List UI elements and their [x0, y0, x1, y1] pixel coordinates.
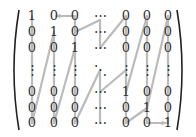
matrix-entry: 0	[139, 115, 155, 131]
matrix-entry: 0	[118, 100, 134, 116]
matrix-entry: 0	[67, 100, 83, 116]
matrix-entry: 0	[118, 40, 134, 56]
matrix-entry: 0	[160, 84, 176, 100]
matrix-entry: 0	[139, 40, 155, 56]
matrix-entry: 0	[46, 115, 62, 131]
matrix-entry: 0	[160, 24, 176, 40]
matrix-entry: 0	[160, 40, 176, 56]
matrix-entry: ⋯	[92, 40, 108, 56]
matrix-entry: ⋮	[67, 62, 83, 78]
matrix-entry: 0	[24, 84, 40, 100]
matrix-entry: 0	[67, 84, 83, 100]
matrix-entry: 0	[24, 40, 40, 56]
matrix-entry: ⋮	[24, 62, 40, 78]
matrix-entry: 0	[46, 8, 62, 24]
matrix-entry: 0	[46, 100, 62, 116]
matrix-diagram: 100⋯000010⋯000001⋯000⋮⋮⋮⋱⋮⋮⋮000⋯100000⋯0…	[0, 0, 196, 137]
matrix-entry: 0	[139, 84, 155, 100]
matrix-entry: 1	[46, 24, 62, 40]
matrix-entry: 0	[139, 24, 155, 40]
matrix-entry: 0	[67, 24, 83, 40]
matrix-entry: 0	[24, 100, 40, 116]
matrix-entry: 0	[160, 8, 176, 24]
matrix-entry: ⋮	[160, 62, 176, 78]
matrix-entry: 0	[118, 8, 134, 24]
matrix-entry: 0	[67, 115, 83, 131]
matrix-entry: ⋯	[92, 84, 108, 100]
matrix-entry: 0	[46, 40, 62, 56]
matrix-entry: ⋮	[118, 62, 134, 78]
matrix-entry: 1	[118, 84, 134, 100]
matrix-entry: 1	[67, 40, 83, 56]
matrix-entry: 0	[67, 8, 83, 24]
left-parenthesis	[8, 8, 20, 132]
matrix-entry: 0	[24, 24, 40, 40]
matrix-entry: 1	[139, 100, 155, 116]
right-parenthesis	[176, 8, 188, 132]
matrix-entry: 0	[118, 115, 134, 131]
matrix-entry: 0	[160, 100, 176, 116]
matrix-entry: ⋱	[92, 62, 108, 78]
matrix-entry: 0	[118, 24, 134, 40]
matrix-entry: ⋯	[92, 8, 108, 24]
matrix-entry: 0	[24, 115, 40, 131]
matrix-entry: ⋯	[92, 100, 108, 116]
matrix-entry: ⋮	[46, 62, 62, 78]
matrix-entry: ⋯	[92, 115, 108, 131]
matrix-entry: 0	[46, 84, 62, 100]
matrix-entry: ⋮	[139, 62, 155, 78]
matrix-entry: ⋯	[92, 24, 108, 40]
matrix-entry: 1	[24, 8, 40, 24]
matrix-entry: 1	[160, 115, 176, 131]
matrix-entry: 0	[139, 8, 155, 24]
